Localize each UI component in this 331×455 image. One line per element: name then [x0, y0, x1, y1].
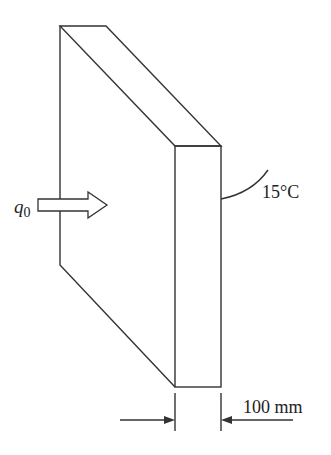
heat-flux-label: q0 — [14, 196, 31, 220]
temperature-leader-line — [221, 170, 268, 199]
wall-front-face — [175, 146, 221, 387]
wall-diagram: q0 15°C 100 mm — [0, 0, 331, 455]
heat-flux-arrow-icon — [38, 192, 107, 218]
surface-temperature-label: 15°C — [262, 182, 299, 202]
dimension-arrowhead-left — [164, 416, 175, 424]
wall-top-face — [60, 26, 221, 146]
dimension-arrowhead-right — [221, 416, 232, 424]
thickness-label: 100 mm — [243, 397, 303, 417]
